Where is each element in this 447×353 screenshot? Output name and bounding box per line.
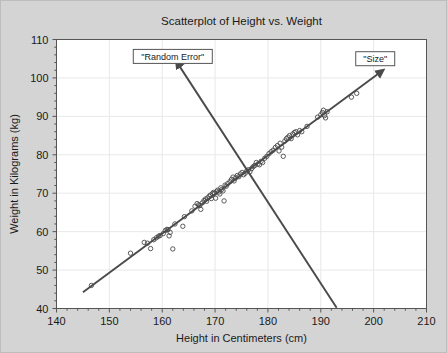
annotation-size: "Size": [356, 52, 395, 66]
x-tick-label: 150: [100, 315, 118, 327]
y-tick-label: 60: [36, 226, 48, 238]
annotation-label: "Random Error": [141, 52, 204, 62]
y-tick-label: 110: [31, 34, 49, 46]
y-tick-label: 40: [36, 303, 48, 315]
y-axis-title: Weight in Kilograms (kg): [8, 114, 20, 234]
y-tick-label: 100: [30, 72, 48, 84]
x-tick-label: 180: [259, 315, 277, 327]
y-tick-label: 80: [36, 149, 48, 161]
x-tick-label: 160: [153, 315, 171, 327]
chart-figure: 140150160170180190200210 405060708090100…: [0, 0, 447, 353]
chart-title: Scatterplot of Height vs. Weight: [161, 15, 323, 27]
y-tick-label: 90: [36, 110, 48, 122]
x-tick-label: 140: [47, 315, 65, 327]
x-tick-label: 170: [206, 315, 224, 327]
x-axis-title: Height in Centimeters (cm): [176, 332, 307, 344]
x-tick-label: 190: [312, 315, 330, 327]
scatterplot-canvas: 140150160170180190200210 405060708090100…: [1, 1, 447, 353]
x-tick-label: 210: [417, 315, 435, 327]
y-tick-label: 70: [36, 187, 48, 199]
annotation-label: "Size": [363, 54, 387, 64]
x-tick-label: 200: [364, 315, 382, 327]
annotation-random-error: "Random Error": [133, 49, 212, 63]
y-tick-label: 50: [36, 264, 48, 276]
